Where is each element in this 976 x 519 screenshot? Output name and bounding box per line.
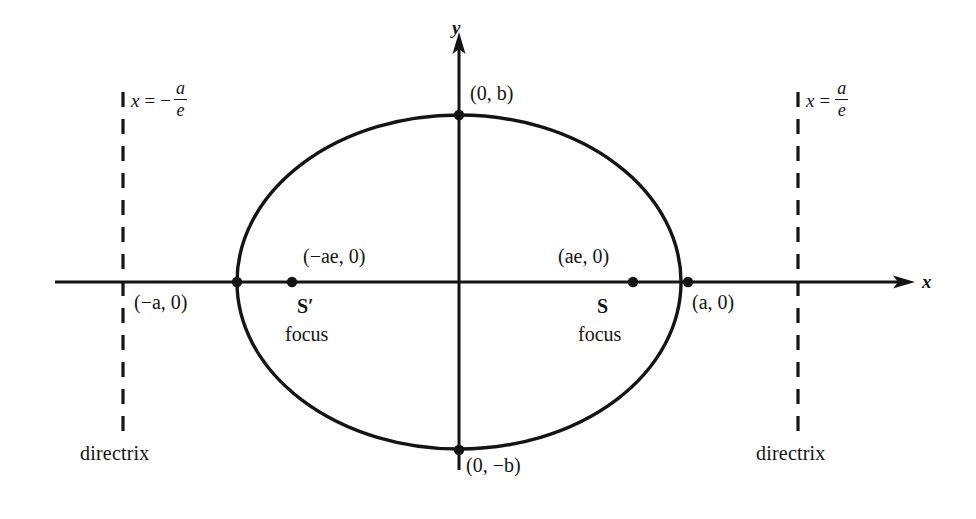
left-focus-caption: focus bbox=[285, 324, 328, 344]
top-covertex-point bbox=[454, 110, 464, 120]
left-vertex-point bbox=[232, 277, 242, 287]
bottom-covertex-point bbox=[454, 445, 464, 455]
left-vertex-label: (−a, 0) bbox=[134, 292, 187, 312]
right-focus-coordinate-label: (ae, 0) bbox=[558, 246, 609, 266]
x-axis bbox=[55, 276, 915, 289]
right-directrix-equation: x = a e bbox=[806, 80, 848, 121]
left-directrix-equation-variable: x bbox=[131, 91, 139, 110]
right-directrix-denominator: e bbox=[836, 100, 848, 120]
y-axis bbox=[453, 32, 466, 470]
right-focus-caption: focus bbox=[578, 324, 621, 344]
left-directrix-fraction: a e bbox=[174, 79, 187, 120]
top-covertex-label: (0, b) bbox=[470, 83, 513, 103]
y-axis-label: y bbox=[452, 18, 460, 37]
right-focus-point bbox=[628, 277, 638, 287]
left-directrix-equation: x = − a e bbox=[131, 80, 187, 121]
right-directrix-fraction: a e bbox=[835, 79, 848, 120]
right-vertex-point bbox=[683, 277, 693, 287]
right-directrix-numerator: a bbox=[835, 79, 848, 99]
left-directrix-caption: directrix bbox=[80, 443, 150, 463]
right-vertex-label: (a, 0) bbox=[692, 292, 734, 312]
right-directrix-caption: directrix bbox=[756, 443, 826, 463]
bottom-covertex-label: (0, −b) bbox=[466, 455, 521, 475]
left-focus-coordinate-label: (−ae, 0) bbox=[303, 246, 365, 266]
right-directrix-equation-variable: x bbox=[806, 91, 814, 110]
left-focus-point bbox=[287, 277, 297, 287]
left-directrix-equals-sign: = bbox=[144, 91, 155, 110]
right-focus-name: S bbox=[597, 296, 608, 316]
left-directrix-minus-sign: − bbox=[160, 91, 171, 110]
left-directrix-denominator: e bbox=[174, 100, 186, 120]
left-focus-name: S′ bbox=[297, 296, 314, 316]
ellipse-figure: y x x = − a e x = a e directrix directri… bbox=[0, 0, 976, 519]
right-directrix-equals-sign: = bbox=[819, 91, 830, 110]
left-directrix-numerator: a bbox=[174, 79, 187, 99]
x-axis-label: x bbox=[922, 272, 932, 291]
